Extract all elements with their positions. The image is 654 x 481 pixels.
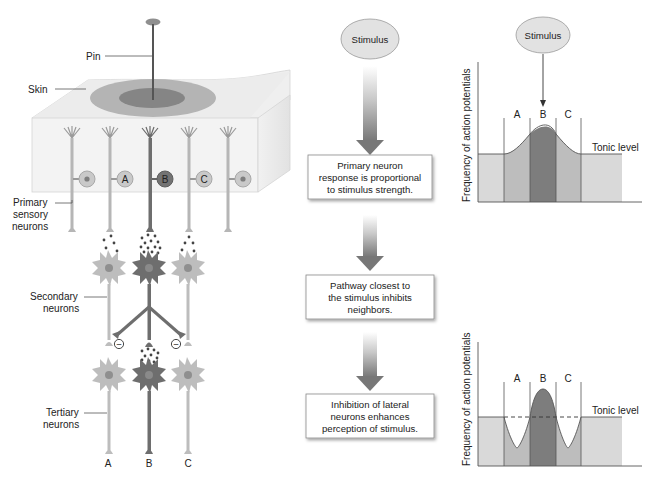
y-axis-label: Frequency of action potentials — [461, 333, 472, 466]
flow-step-3-text: perception of stimulus. — [322, 423, 418, 434]
flow-step-3-text: neurons enhances — [331, 411, 410, 422]
svg-text:A: A — [514, 373, 521, 384]
tertiary-neuron-b — [132, 357, 166, 454]
primary-neurons-label: sensory — [13, 209, 48, 220]
flow-step-1-text: response is proportional — [319, 172, 421, 183]
tertiary-neurons-label: neurons — [43, 419, 79, 430]
flow-arrow-icon — [356, 332, 384, 391]
flow-step-1-text: to stimulus strength. — [327, 184, 413, 195]
tertiary-neurons-label: Tertiary — [46, 407, 79, 418]
inhibition-icon: − — [114, 339, 123, 350]
flow-step-2-text: Pathway closest to — [330, 280, 410, 291]
svg-text:Stimulus: Stimulus — [352, 34, 389, 45]
svg-text:A: A — [514, 109, 521, 120]
svg-text:−: − — [173, 339, 179, 350]
flow-step-2-text: neighbors. — [348, 304, 393, 315]
flow-step-3-text: Inhibition of lateral — [331, 399, 409, 410]
lateral-inhibition-figure: Pin Skin A B — [0, 0, 654, 481]
svg-text:C: C — [564, 373, 571, 384]
secondary-neurons: − − — [92, 250, 205, 350]
svg-text:Stimulus: Stimulus — [525, 30, 562, 41]
output-label-b: B — [146, 458, 153, 469]
flow-step-2-text: the stimulus inhibits — [328, 292, 412, 303]
tonic-level-label: Tonic level — [592, 405, 639, 416]
svg-text:A: A — [122, 174, 129, 185]
output-label-c: C — [184, 458, 191, 469]
flow-step-1-text: Primary neuron — [337, 160, 403, 171]
tertiary-neuron-a — [92, 357, 126, 454]
flowchart: Stimulus Primary neuron response is prop… — [306, 19, 434, 438]
stimulus-node: Stimulus — [516, 17, 570, 53]
svg-text:C: C — [200, 174, 207, 185]
svg-text:−: − — [116, 339, 122, 350]
y-axis-label: Frequency of action potentials — [461, 69, 472, 202]
skin-label: Skin — [28, 84, 47, 95]
secondary-neurons-label: neurons — [43, 303, 79, 314]
svg-text:B: B — [162, 174, 169, 185]
chart-lateral-inhibition: A B C Tonic level Frequency of action po… — [461, 333, 642, 466]
svg-text:C: C — [564, 109, 571, 120]
primary-neurons-label: neurons — [12, 221, 48, 232]
svg-text:B: B — [540, 109, 547, 120]
primary-neurons-label: Primary — [13, 197, 47, 208]
svg-text:B: B — [540, 373, 547, 384]
tonic-level-label: Tonic level — [592, 142, 639, 153]
chart-primary-response: Stimulus A B C Tonic level Frequency of … — [461, 17, 642, 202]
flow-arrow-icon — [356, 66, 384, 155]
inhibition-icon: − — [171, 339, 180, 350]
tertiary-neuron-c — [171, 357, 205, 454]
pin-label: Pin — [86, 51, 100, 62]
stimulus-node: Stimulus — [341, 19, 399, 59]
tertiary-neurons — [92, 357, 205, 454]
flow-arrow-icon — [356, 215, 384, 271]
neurotransmitter-release — [103, 234, 196, 255]
output-label-a: A — [105, 458, 112, 469]
secondary-neurons-label: Secondary — [30, 291, 78, 302]
